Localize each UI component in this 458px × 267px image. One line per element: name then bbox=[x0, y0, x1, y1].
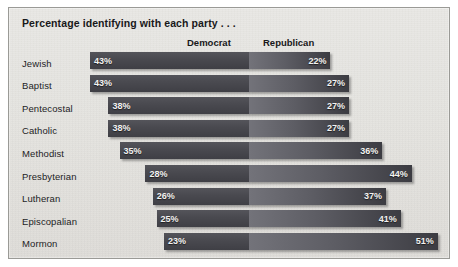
chart-row: Methodist35%36% bbox=[9, 142, 451, 163]
bar-value-democrat: 38% bbox=[112, 101, 130, 111]
bar-value-democrat: 26% bbox=[157, 191, 175, 201]
bar-republican: 44% bbox=[249, 165, 412, 182]
chart-row: Jewish43%22% bbox=[9, 52, 451, 73]
bar-republican: 41% bbox=[249, 210, 401, 227]
bar-value-democrat: 43% bbox=[94, 56, 112, 66]
bar-value-republican: 41% bbox=[379, 214, 397, 224]
chart-panel: Percentage identifying with each party .… bbox=[8, 7, 450, 259]
category-label: Baptist bbox=[22, 80, 52, 91]
bar-value-republican: 37% bbox=[364, 191, 382, 201]
bar-republican: 27% bbox=[249, 75, 349, 92]
bar-republican: 27% bbox=[249, 97, 349, 114]
bar-value-republican: 51% bbox=[416, 236, 434, 246]
category-label: Catholic bbox=[22, 125, 57, 136]
bar-value-republican: 27% bbox=[327, 78, 345, 88]
bar-value-republican: 27% bbox=[327, 123, 345, 133]
chart-row: Pentecostal38%27% bbox=[9, 97, 451, 118]
bar-value-republican: 22% bbox=[308, 56, 326, 66]
bar-value-republican: 27% bbox=[327, 101, 345, 111]
chart-row: Lutheran26%37% bbox=[9, 188, 451, 209]
category-label: Presbyterian bbox=[22, 170, 77, 181]
bar-democrat: 23% bbox=[164, 233, 249, 250]
chart-row: Presbyterian28%44% bbox=[9, 165, 451, 186]
bar-value-democrat: 43% bbox=[94, 78, 112, 88]
bar-democrat: 28% bbox=[145, 165, 249, 182]
bar-value-democrat: 35% bbox=[124, 146, 142, 156]
category-label: Pentecostal bbox=[22, 102, 73, 113]
category-label: Lutheran bbox=[22, 193, 60, 204]
bar-value-democrat: 28% bbox=[149, 169, 167, 179]
category-label: Methodist bbox=[22, 147, 64, 158]
bar-democrat: 38% bbox=[108, 120, 249, 137]
category-label: Jewish bbox=[22, 57, 52, 68]
bar-value-democrat: 23% bbox=[168, 236, 186, 246]
bar-value-democrat: 38% bbox=[112, 123, 130, 133]
bar-republican: 37% bbox=[249, 188, 386, 205]
category-label: Mormon bbox=[22, 238, 57, 249]
bar-republican: 22% bbox=[249, 52, 330, 69]
bar-democrat: 38% bbox=[108, 97, 249, 114]
bar-republican: 51% bbox=[249, 233, 438, 250]
bar-democrat: 43% bbox=[90, 52, 249, 69]
bar-democrat: 26% bbox=[153, 188, 249, 205]
bar-value-democrat: 25% bbox=[161, 214, 179, 224]
bar-democrat: 43% bbox=[90, 75, 249, 92]
bar-democrat: 35% bbox=[120, 142, 250, 159]
bar-republican: 27% bbox=[249, 120, 349, 137]
bar-value-republican: 44% bbox=[390, 169, 408, 179]
diverging-bar-plot: Jewish43%22%Baptist43%27%Pentecostal38%2… bbox=[9, 8, 451, 260]
chart-row: Mormon23%51% bbox=[9, 233, 451, 254]
chart-row: Episcopalian25%41% bbox=[9, 210, 451, 231]
chart-row: Catholic38%27% bbox=[9, 120, 451, 141]
bar-democrat: 25% bbox=[157, 210, 250, 227]
bar-republican: 36% bbox=[249, 142, 382, 159]
bar-value-republican: 36% bbox=[360, 146, 378, 156]
category-label: Episcopalian bbox=[22, 215, 77, 226]
chart-row: Baptist43%27% bbox=[9, 75, 451, 96]
